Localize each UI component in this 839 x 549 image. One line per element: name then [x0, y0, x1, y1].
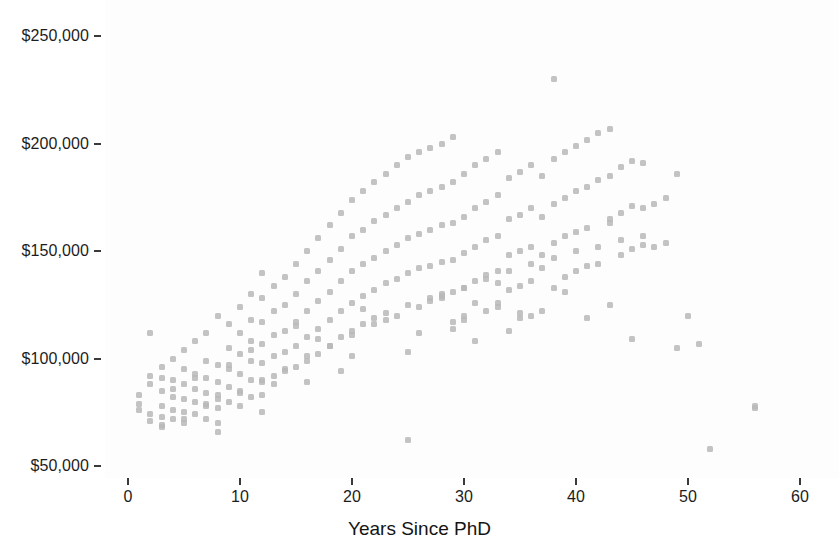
data-point — [383, 310, 389, 316]
data-point — [651, 201, 657, 207]
data-point — [226, 362, 232, 368]
data-point — [696, 341, 702, 347]
data-point — [752, 403, 758, 409]
data-point — [394, 242, 400, 248]
data-point — [259, 360, 265, 366]
data-point — [707, 446, 713, 452]
data-point — [315, 326, 321, 332]
data-point — [450, 220, 456, 226]
data-point — [315, 336, 321, 342]
data-point — [472, 205, 478, 211]
y-axis-tick-label: $250,000 — [21, 27, 89, 45]
data-point — [562, 195, 568, 201]
data-point — [405, 302, 411, 308]
data-point — [248, 291, 254, 297]
data-point — [259, 270, 265, 276]
data-point — [226, 399, 232, 405]
data-point — [271, 381, 277, 387]
data-point — [607, 216, 613, 222]
data-point — [338, 246, 344, 252]
data-point — [663, 240, 669, 246]
data-point — [371, 255, 377, 261]
data-point — [203, 390, 209, 396]
data-point — [147, 381, 153, 387]
data-point — [170, 356, 176, 362]
data-point — [551, 255, 557, 261]
data-point — [573, 229, 579, 235]
data-point — [506, 216, 512, 222]
data-point — [584, 137, 590, 143]
data-point — [495, 149, 501, 155]
data-point — [338, 210, 344, 216]
data-point — [304, 308, 310, 314]
data-point — [640, 242, 646, 248]
data-point — [584, 315, 590, 321]
data-point — [360, 227, 366, 233]
data-point — [327, 343, 333, 349]
data-point — [327, 289, 333, 295]
data-point — [427, 227, 433, 233]
data-point — [573, 248, 579, 254]
data-point — [293, 291, 299, 297]
data-point — [338, 278, 344, 284]
data-point — [304, 379, 310, 385]
y-axis-tick: $50,000 — [30, 457, 105, 475]
data-point — [349, 268, 355, 274]
data-point — [259, 319, 265, 325]
data-point — [618, 252, 624, 258]
data-point — [192, 399, 198, 405]
data-point — [282, 366, 288, 372]
data-point — [192, 338, 198, 344]
data-point — [136, 401, 142, 407]
data-point — [315, 351, 321, 357]
x-axis-tick: 50 — [668, 478, 708, 506]
data-point — [427, 263, 433, 269]
x-axis-tick-label: 0 — [108, 488, 148, 506]
data-point — [495, 280, 501, 286]
x-axis-tick: 60 — [780, 478, 820, 506]
data-point — [349, 353, 355, 359]
y-axis-tick-mark — [94, 465, 101, 467]
data-point — [584, 184, 590, 190]
x-axis-tick-mark — [799, 478, 801, 485]
data-point — [349, 197, 355, 203]
data-point — [226, 345, 232, 351]
data-point — [215, 313, 221, 319]
data-point — [304, 278, 310, 284]
data-point — [170, 386, 176, 392]
data-point — [136, 407, 142, 413]
data-point — [203, 375, 209, 381]
data-point — [170, 377, 176, 383]
data-point — [293, 323, 299, 329]
data-point — [528, 244, 534, 250]
data-point — [203, 401, 209, 407]
data-point — [461, 250, 467, 256]
data-point — [472, 338, 478, 344]
data-point — [551, 76, 557, 82]
x-axis-tick-label: 60 — [780, 488, 820, 506]
data-point — [517, 248, 523, 254]
data-point — [461, 285, 467, 291]
data-point — [405, 199, 411, 205]
data-point — [248, 338, 254, 344]
data-point — [607, 126, 613, 132]
y-axis-tick-mark — [94, 358, 101, 360]
data-point — [248, 394, 254, 400]
data-point — [573, 268, 579, 274]
data-point — [439, 184, 445, 190]
data-point — [237, 304, 243, 310]
data-point — [271, 353, 277, 359]
data-point — [282, 274, 288, 280]
data-point — [595, 177, 601, 183]
data-point — [405, 154, 411, 160]
data-point — [259, 341, 265, 347]
y-axis-tick-mark — [94, 250, 101, 252]
data-point — [439, 259, 445, 265]
data-point — [517, 169, 523, 175]
data-point — [181, 366, 187, 372]
data-point — [528, 278, 534, 284]
y-axis-tick-mark — [94, 143, 101, 145]
data-point — [271, 283, 277, 289]
data-point — [450, 134, 456, 140]
data-point — [383, 212, 389, 218]
